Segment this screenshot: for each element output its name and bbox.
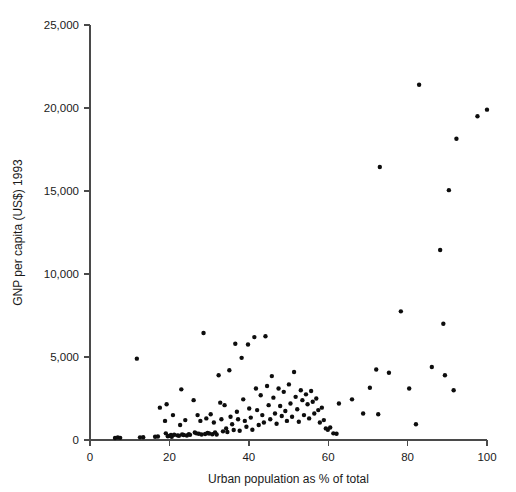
x-tick-label: 0 — [87, 451, 93, 463]
data-point — [135, 356, 139, 360]
data-point — [178, 423, 182, 427]
x-axis-title: Urban population as % of total — [208, 472, 369, 486]
data-point — [156, 434, 160, 438]
data-point — [171, 413, 175, 417]
data-point — [285, 419, 289, 423]
x-tick-label: 100 — [477, 451, 496, 463]
data-point — [361, 411, 365, 415]
data-point — [337, 401, 341, 405]
data-point — [257, 423, 261, 427]
data-point — [280, 414, 284, 418]
data-point — [271, 395, 275, 399]
data-point — [399, 309, 403, 313]
data-point — [260, 413, 264, 417]
data-point — [485, 107, 489, 111]
x-tick-label: 20 — [163, 451, 176, 463]
data-point — [191, 398, 195, 402]
data-point — [244, 425, 248, 429]
data-point — [309, 389, 313, 393]
data-point — [293, 395, 297, 399]
data-point — [179, 387, 183, 391]
data-point — [454, 137, 458, 141]
data-point — [316, 408, 320, 412]
scatter-plot-figure: 05,00010,00015,00020,00025,0000204060801… — [0, 0, 516, 492]
data-point — [249, 415, 253, 419]
data-point — [218, 400, 222, 404]
x-tick-label: 40 — [242, 451, 255, 463]
data-point — [225, 430, 229, 434]
data-point — [430, 365, 434, 369]
data-point — [407, 386, 411, 390]
data-point — [254, 386, 258, 390]
data-point — [451, 388, 455, 392]
data-point — [311, 400, 315, 404]
y-tick-label: 20,000 — [44, 102, 79, 114]
data-point — [441, 322, 445, 326]
data-point — [304, 392, 308, 396]
data-point — [239, 356, 243, 360]
data-point — [376, 412, 380, 416]
data-point — [318, 420, 322, 424]
data-point — [219, 417, 223, 421]
data-point — [243, 419, 247, 423]
data-point — [163, 419, 167, 423]
data-point — [232, 428, 236, 432]
data-point — [417, 83, 421, 87]
data-point — [438, 248, 442, 252]
data-point — [164, 402, 168, 406]
data-point — [241, 397, 245, 401]
y-axis-title: GNP per capita (US$) 1993 — [11, 159, 25, 306]
data-point — [278, 404, 282, 408]
data-point — [314, 396, 318, 400]
data-point — [247, 406, 251, 410]
data-point — [292, 370, 296, 374]
data-point — [288, 401, 292, 405]
data-point — [297, 420, 301, 424]
chart-canvas: 05,00010,00015,00020,00025,0000204060801… — [0, 0, 516, 492]
data-point — [236, 417, 240, 421]
data-point — [118, 436, 122, 440]
data-point — [158, 405, 162, 409]
data-point — [374, 367, 378, 371]
data-point — [250, 428, 254, 432]
data-point — [290, 415, 294, 419]
data-point — [198, 419, 202, 423]
data-point — [334, 431, 338, 435]
data-point — [255, 408, 259, 412]
data-point — [305, 402, 309, 406]
data-point — [230, 422, 234, 426]
data-point — [235, 410, 239, 414]
data-point — [387, 371, 391, 375]
x-tick-label: 80 — [401, 451, 414, 463]
data-point — [195, 413, 199, 417]
data-point — [265, 384, 269, 388]
data-point — [368, 386, 372, 390]
data-point — [141, 435, 145, 439]
data-point-group — [113, 83, 489, 441]
data-point — [188, 433, 192, 437]
data-point — [201, 331, 205, 335]
y-tick-label: 25,000 — [44, 19, 79, 31]
data-point — [312, 411, 316, 415]
data-point — [414, 422, 418, 426]
data-point — [300, 398, 304, 402]
data-point — [328, 425, 332, 429]
data-point — [252, 335, 256, 339]
data-point — [270, 374, 274, 378]
data-point — [350, 397, 354, 401]
data-point — [266, 403, 270, 407]
data-point — [287, 382, 291, 386]
y-tick-label: 5,000 — [50, 351, 79, 363]
data-point — [212, 420, 216, 424]
data-point — [320, 405, 324, 409]
data-point — [276, 386, 280, 390]
data-point — [216, 373, 220, 377]
data-point — [299, 388, 303, 392]
data-point — [183, 418, 187, 422]
data-point — [302, 413, 306, 417]
y-tick-label: 10,000 — [44, 268, 79, 280]
data-point — [322, 418, 326, 422]
data-point — [228, 415, 232, 419]
axis-lines — [90, 25, 487, 440]
y-tick-label: 15,000 — [44, 185, 79, 197]
